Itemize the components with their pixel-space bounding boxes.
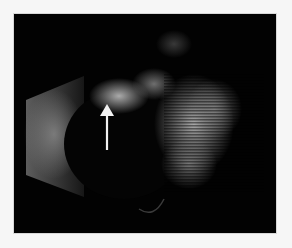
arrow-annotation-icon — [14, 14, 277, 234]
ultrasound-image — [13, 13, 277, 234]
